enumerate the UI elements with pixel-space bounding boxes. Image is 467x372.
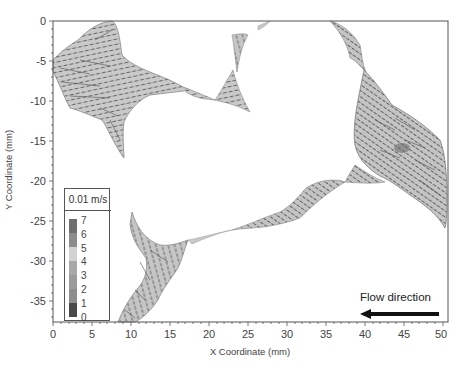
vortex-core bbox=[394, 143, 410, 153]
x-axis bbox=[53, 322, 443, 326]
flow-region-top-sliver bbox=[258, 21, 270, 30]
colorbar-segment bbox=[69, 219, 77, 233]
svg-text:-20: -20 bbox=[30, 175, 46, 187]
flow-region-left bbox=[53, 21, 190, 158]
svg-text:-5: -5 bbox=[36, 55, 46, 67]
legend-label: 6 bbox=[81, 228, 101, 242]
svg-text:10: 10 bbox=[125, 328, 137, 340]
legend-label: 3 bbox=[81, 269, 101, 283]
svg-text:45: 45 bbox=[398, 328, 410, 340]
svg-text:-10: -10 bbox=[30, 95, 46, 107]
svg-text:30: 30 bbox=[281, 328, 293, 340]
legend-label: 0 bbox=[81, 311, 101, 325]
colorbar-segment bbox=[69, 303, 77, 317]
colorbar-segment bbox=[69, 247, 77, 261]
colorbar-segment bbox=[69, 275, 77, 289]
svg-text:5: 5 bbox=[89, 328, 95, 340]
flow-region-lower-bend bbox=[188, 230, 232, 244]
svg-text:-25: -25 bbox=[30, 215, 46, 227]
flow-field bbox=[53, 21, 447, 322]
legend-label: 2 bbox=[81, 283, 101, 297]
legend-labels: 7 6 5 4 3 2 1 0 bbox=[81, 214, 101, 324]
arrow-left-icon bbox=[360, 309, 440, 319]
colorbar-segment bbox=[69, 289, 77, 303]
flow-region-lower-throat bbox=[232, 180, 345, 230]
y-axis bbox=[49, 21, 53, 317]
legend-colorbar bbox=[69, 219, 77, 317]
svg-text:0: 0 bbox=[50, 328, 56, 340]
colorbar-segment bbox=[69, 261, 77, 275]
velocity-legend: 0.01 m/s 7 6 5 4 3 2 1 0 bbox=[64, 188, 110, 321]
svg-text:0: 0 bbox=[40, 15, 46, 27]
flow-region-throat bbox=[186, 70, 250, 112]
flow-region-upper-throat bbox=[232, 34, 248, 72]
svg-text:-35: -35 bbox=[30, 295, 46, 307]
legend-label: 4 bbox=[81, 255, 101, 269]
flow-direction-label: Flow direction bbox=[360, 291, 431, 303]
svg-text:40: 40 bbox=[359, 328, 371, 340]
flow-region-upper-right bbox=[330, 21, 366, 72]
y-tick-labels: 0 -5 -10 -15 -20 -25 -30 -35 bbox=[30, 15, 46, 307]
legend-scale-label: 0.01 m/s bbox=[65, 189, 111, 211]
x-axis-title: X Coordinate (mm) bbox=[210, 346, 290, 357]
svg-text:-30: -30 bbox=[30, 255, 46, 267]
svg-text:20: 20 bbox=[203, 328, 215, 340]
svg-text:-15: -15 bbox=[30, 135, 46, 147]
colorbar-segment bbox=[69, 233, 77, 247]
legend-label: 1 bbox=[81, 297, 101, 311]
y-axis-title: Y Coordinate (mm) bbox=[3, 130, 14, 210]
legend-label: 5 bbox=[81, 242, 101, 256]
x-tick-labels: 0 5 10 15 20 25 30 35 40 45 50 bbox=[50, 328, 447, 340]
flow-region-lower-left bbox=[118, 212, 188, 322]
svg-text:35: 35 bbox=[320, 328, 332, 340]
svg-text:15: 15 bbox=[164, 328, 176, 340]
svg-text:25: 25 bbox=[242, 328, 254, 340]
legend-label: 7 bbox=[81, 214, 101, 228]
svg-text:50: 50 bbox=[435, 328, 447, 340]
